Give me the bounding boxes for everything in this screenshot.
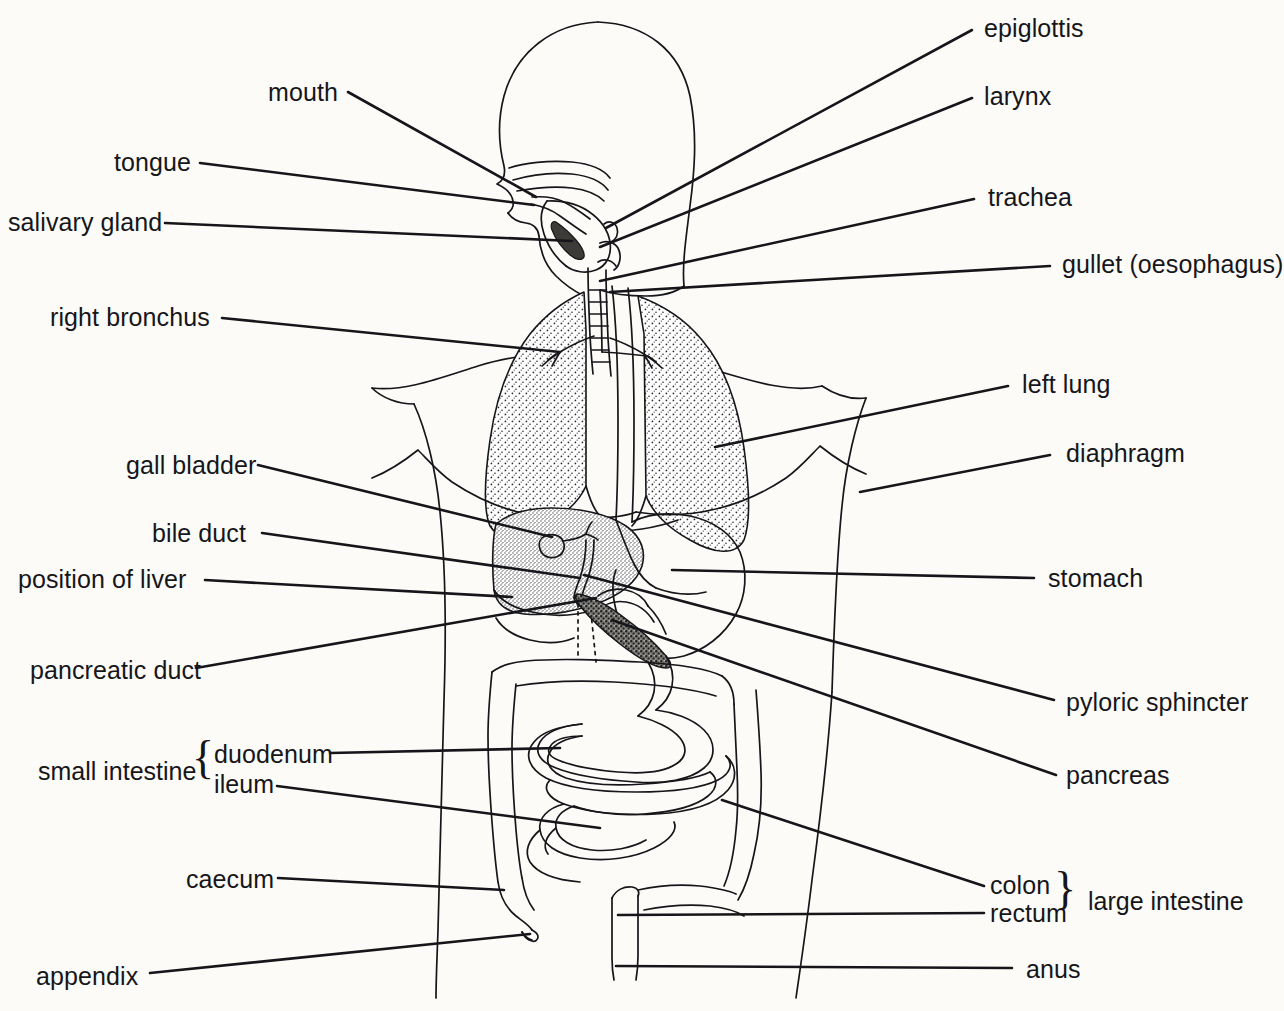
label-position-of-liver[interactable]: position of liver: [18, 567, 186, 592]
label-pancreas[interactable]: pancreas: [1066, 763, 1170, 788]
label-mouth[interactable]: mouth: [268, 80, 338, 105]
label-larynx[interactable]: larynx: [984, 84, 1051, 109]
right-lung-shape: [486, 292, 587, 536]
label-salivary-gland[interactable]: salivary gland: [8, 210, 162, 235]
head-outline: [497, 22, 695, 296]
diaphragm-shape: [372, 446, 866, 532]
leader-line-stomach: [672, 570, 1034, 578]
leader-line-appendix: [150, 934, 530, 973]
leader-line-colon: [722, 800, 984, 886]
brace-large-intestine: }: [1054, 866, 1076, 912]
group-label-large-intestine: large intestine: [1088, 887, 1244, 916]
leader-line-mouth: [348, 92, 536, 197]
label-anus[interactable]: anus: [1026, 957, 1081, 982]
torso-outline: [414, 398, 866, 998]
label-stomach[interactable]: stomach: [1048, 566, 1143, 591]
small-intestine-shape: [527, 656, 734, 882]
leader-line-trachea: [600, 199, 974, 281]
leader-line-position-of-liver: [205, 580, 512, 597]
nasal-cavity: [509, 161, 610, 201]
label-diaphragm[interactable]: diaphragm: [1066, 441, 1185, 466]
brace-small-intestine: {: [192, 735, 214, 781]
label-colon[interactable]: colon: [990, 873, 1050, 898]
trachea-shape: [588, 268, 611, 376]
leader-line-anus: [616, 966, 1012, 968]
leader-line-pancreatic-duct: [196, 598, 596, 668]
label-epiglottis[interactable]: epiglottis: [984, 16, 1084, 41]
leader-line-caecum: [278, 878, 504, 890]
label-ileum[interactable]: ileum: [214, 772, 274, 797]
leader-line-rectum: [618, 913, 984, 915]
leader-line-ileum: [277, 786, 600, 828]
leader-line-gullet: [610, 266, 1050, 292]
leader-line-diaphragm: [860, 455, 1050, 492]
pancreas-shape: [576, 594, 671, 668]
leader-line-left-lung: [715, 386, 1008, 447]
label-pyloric-sphincter[interactable]: pyloric sphincter: [1066, 690, 1248, 715]
group-label-small-intestine: small intestine: [38, 757, 196, 786]
label-appendix[interactable]: appendix: [36, 964, 138, 989]
label-trachea[interactable]: trachea: [988, 185, 1072, 210]
label-tongue[interactable]: tongue: [114, 150, 191, 175]
label-pancreatic-duct[interactable]: pancreatic duct: [30, 658, 201, 683]
leader-line-right-bronchus: [222, 318, 560, 352]
label-duodenum[interactable]: duodenum: [214, 742, 333, 767]
leader-line-salivary-gland: [165, 223, 572, 241]
oesophagus-shape: [612, 286, 634, 522]
label-bile-duct[interactable]: bile duct: [152, 521, 246, 546]
label-gall-bladder[interactable]: gall bladder: [126, 453, 256, 478]
leader-line-larynx: [600, 98, 972, 247]
label-left-lung[interactable]: left lung: [1022, 372, 1110, 397]
label-right-bronchus[interactable]: right bronchus: [50, 305, 210, 330]
shoulders-outline: [372, 350, 866, 404]
leader-line-duodenum: [330, 748, 560, 753]
leader-line-epiglottis: [606, 30, 972, 228]
label-caecum[interactable]: caecum: [186, 867, 274, 892]
label-gullet-oesophagus[interactable]: gullet (oesophagus): [1062, 252, 1284, 277]
